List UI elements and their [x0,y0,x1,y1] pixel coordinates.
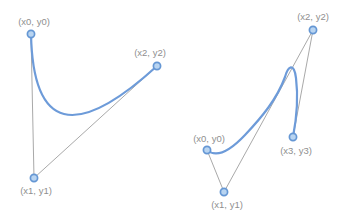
cubic-bezier-control-point-p0 [203,146,210,153]
cubic-bezier-control-point-p2 [309,26,316,33]
quadratic-bezier-control-point-p0 [27,30,34,37]
figure-svg: (x0, y0)(x1, y1)(x2, y2)(x0, y0)(x1, y1)… [0,0,347,216]
quadratic-bezier-control-point-p2 [153,62,160,69]
cubic-bezier-point-label-p1: (x1, y1) [211,199,243,210]
quadratic-bezier-point-label-p2: (x2, y2) [134,47,166,58]
cubic-bezier-diagram: (x0, y0)(x1, y1)(x2, y2)(x3, y3) [193,11,329,210]
cubic-bezier-control-point-p1 [220,188,227,195]
cubic-bezier-point-label-p0: (x0, y0) [193,133,225,144]
quadratic-bezier-diagram: (x0, y0)(x1, y1)(x2, y2) [18,16,166,196]
cubic-bezier-point-label-p2: (x2, y2) [297,11,329,22]
quadratic-bezier-control-point-p1 [30,174,37,181]
quadratic-bezier-point-label-p0: (x0, y0) [18,16,50,27]
quadratic-bezier-point-label-p1: (x1, y1) [20,185,52,196]
control-polygon-line [207,150,224,192]
cubic-bezier-control-point-p3 [289,133,296,140]
cubic-bezier-point-label-p3: (x3, y3) [280,145,312,156]
bezier-figure: (x0, y0)(x1, y1)(x2, y2)(x0, y0)(x1, y1)… [0,0,347,216]
control-polygon-line [224,30,313,192]
